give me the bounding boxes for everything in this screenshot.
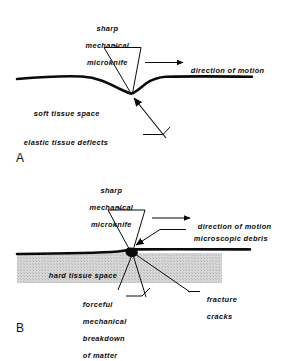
- panel-b-breakdown-line2: mechanical: [83, 317, 127, 326]
- panel-b-debris-text: microscopic debris: [194, 234, 268, 243]
- panel-b-fracture-line2: cracks: [207, 312, 233, 321]
- panel-b-breakdown-label: forceful mechanical breakdown of matter: [78, 292, 158, 361]
- panel-b-breakdown-line1: forceful: [83, 300, 113, 309]
- elastic-tissue-deflect-leader-tail: [163, 127, 170, 135]
- panel-b-letter: B: [16, 321, 24, 335]
- panel-a-microknife-line2: mechanical: [86, 41, 130, 50]
- panel-b-microknife-line1: sharp: [100, 186, 122, 195]
- panel-b-microknife-line3: microknife: [91, 220, 132, 229]
- panel-a-deflect-label: elastic tissue deflects: [19, 130, 145, 147]
- panel-b-breakdown-line3: breakdown: [83, 334, 125, 343]
- panel-b-fracture-label: fracture cracks: [202, 287, 272, 321]
- microscopic-debris-arrow: [136, 230, 160, 246]
- panel-a-microknife-label: sharp mechanical microknife: [62, 16, 148, 68]
- panel-a-direction-label: direction of motion: [186, 58, 290, 75]
- panel-b-debris-label: microscopic debris: [189, 226, 289, 243]
- panel-a-soft-tissue-text: soft tissue space: [34, 109, 100, 118]
- panel-a-microknife-line1: sharp: [96, 24, 118, 33]
- panel-b-fracture-line1: fracture: [207, 295, 237, 304]
- panel-b-hard-tissue-text: hard tissue space: [49, 271, 117, 280]
- panel-b-microknife-line2: mechanical: [90, 203, 134, 212]
- panel-b-breakdown-line4: of matter: [83, 351, 118, 360]
- panel-a-direction-text: direction of motion: [191, 66, 265, 75]
- panel-a-soft-tissue-label: soft tissue space: [29, 101, 139, 118]
- panel-b-microknife-label: sharp mechanical microknife: [66, 178, 152, 230]
- panel-b-hard-tissue-label: hard tissue space: [44, 263, 154, 280]
- panel-a-letter: A: [16, 151, 24, 165]
- panel-a-deflect-text: elastic tissue deflects: [24, 138, 108, 147]
- panel-a-microknife-line3: microknife: [87, 58, 128, 67]
